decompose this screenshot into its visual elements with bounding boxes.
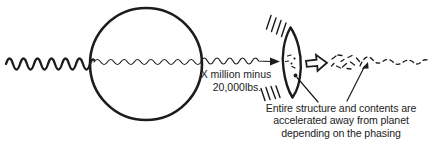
- lens-scatter-marks: [286, 55, 296, 68]
- block-arrow-icon: [306, 55, 327, 71]
- vibration-marks-top: [267, 16, 287, 37]
- pointer-line-structure: [297, 78, 318, 103]
- ejected-dashed-wave: [360, 57, 427, 66]
- mass-label-line2: 20,000lbs.: [213, 81, 261, 93]
- transmitted-wave: [201, 58, 271, 64]
- structure-dot: [294, 74, 298, 78]
- vibration-marks-bottom: [261, 86, 280, 101]
- diagram-canvas: X million minus 20,000lbs. Entire struct…: [0, 0, 428, 148]
- scattered-wave-scribble: [332, 55, 360, 69]
- caption-line3: depending on the phasing: [281, 127, 401, 139]
- incoming-wave: [6, 59, 94, 70]
- caption-line2: accelerated away from planet: [273, 114, 409, 126]
- caption-line1: Entire structure and contents are: [266, 102, 417, 114]
- phasing-propulsion-diagram: X million minus 20,000lbs. Entire struct…: [0, 0, 428, 148]
- wave-arrowhead-icon: [270, 57, 280, 65]
- lens-structure: [283, 28, 301, 98]
- pointer-arrow-wave: [347, 62, 369, 101]
- internal-damped-wave: [94, 60, 201, 65]
- mass-label-line1: X million minus: [201, 68, 272, 80]
